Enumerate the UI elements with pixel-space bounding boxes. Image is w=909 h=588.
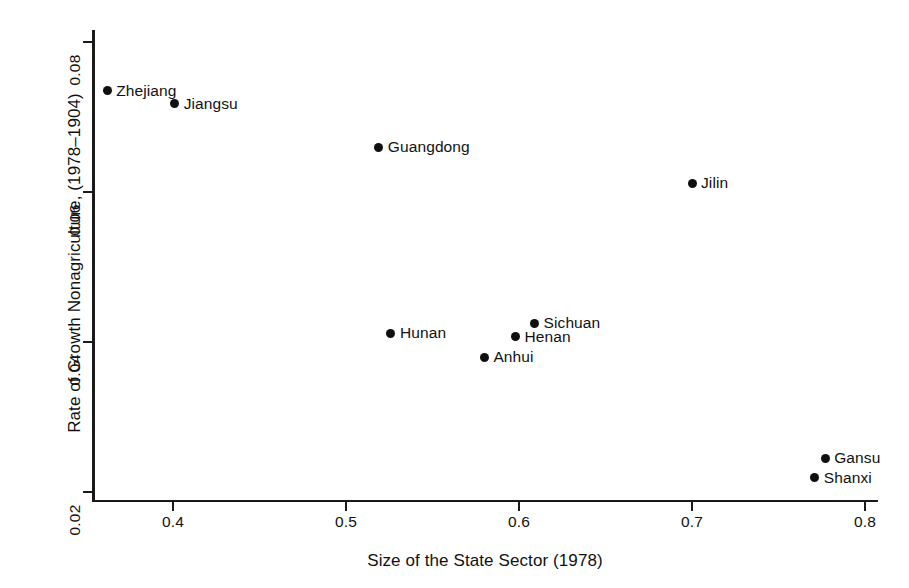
data-point xyxy=(374,143,383,152)
data-point-label: Zhejiang xyxy=(116,82,176,100)
data-point-label: Jilin xyxy=(701,174,728,192)
data-point-label: Gansu xyxy=(834,449,880,467)
data-point-label: Henan xyxy=(525,328,571,346)
data-point xyxy=(821,454,830,463)
data-point-label: Anhui xyxy=(493,348,533,366)
data-point-label: Shanxi xyxy=(824,469,872,487)
data-point-label: Jiangsu xyxy=(184,95,238,113)
x-tick-label: 0.7 xyxy=(662,513,722,531)
x-tick-label: 0.4 xyxy=(143,513,203,531)
y-tick-label: 0.02 xyxy=(66,492,84,548)
data-point xyxy=(170,99,179,108)
x-tick-mark xyxy=(864,502,867,511)
x-tick-label: 0.5 xyxy=(316,513,376,531)
x-tick-mark xyxy=(518,502,521,511)
data-point xyxy=(386,329,395,338)
x-tick-mark xyxy=(345,502,348,511)
data-point-label: Guangdong xyxy=(388,138,470,156)
x-tick-label: 0.8 xyxy=(835,513,895,531)
y-axis-line xyxy=(92,30,95,502)
data-point xyxy=(480,353,489,362)
data-point xyxy=(103,86,112,95)
data-point xyxy=(530,319,539,328)
y-tick-mark xyxy=(83,41,92,44)
data-point xyxy=(511,332,520,341)
x-tick-mark xyxy=(172,502,175,511)
x-tick-label: 0.6 xyxy=(489,513,549,531)
data-point-label: Hunan xyxy=(400,324,446,342)
x-axis-title: Size of the State Sector (1978) xyxy=(92,551,878,571)
x-axis-line xyxy=(92,500,878,503)
data-point xyxy=(688,179,697,188)
data-point xyxy=(810,473,819,482)
y-tick-mark xyxy=(83,491,92,494)
x-tick-mark xyxy=(691,502,694,511)
scatter-plot-figure: 0.020.040.060.08 0.40.50.60.70.8 Rate of… xyxy=(0,0,909,588)
y-axis-title: Rate of Growth Nonagriculture, (1978–190… xyxy=(65,53,85,473)
